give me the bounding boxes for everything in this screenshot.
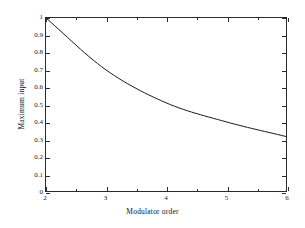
y-tick-label: 0.4 <box>34 118 43 126</box>
x-tick-major <box>288 187 289 191</box>
y-tick-label: 0.5 <box>34 101 43 109</box>
y-tick-label: 0.2 <box>34 153 43 161</box>
data-series-line <box>46 18 286 191</box>
x-tick-label: 2 <box>43 194 47 202</box>
y-tick-label: 0.7 <box>34 66 43 74</box>
x-axis-label: Modulator order <box>0 207 305 216</box>
x-tick-label: 3 <box>104 194 108 202</box>
x-tick-label: 6 <box>285 194 289 202</box>
x-tick-major-top <box>288 18 289 22</box>
y-tick-label: 0.3 <box>34 136 43 144</box>
y-tick-label: 1 <box>40 13 44 21</box>
y-tick-label: 0.8 <box>34 48 43 56</box>
chart-figure: Maximum input 00.10.20.30.40.50.60.70.80… <box>0 0 305 228</box>
x-tick-label: 5 <box>225 194 229 202</box>
y-tick-label: 0.9 <box>34 31 43 39</box>
y-tick-label: 0.1 <box>34 171 43 179</box>
plot-area <box>45 17 287 192</box>
series-polyline-maximum-input <box>46 18 286 137</box>
x-tick-label: 4 <box>164 194 168 202</box>
y-tick-label: 0.6 <box>34 83 43 91</box>
y-axis-label: Maximum input <box>17 78 26 129</box>
y-axis-label-container: Maximum input <box>14 0 28 228</box>
